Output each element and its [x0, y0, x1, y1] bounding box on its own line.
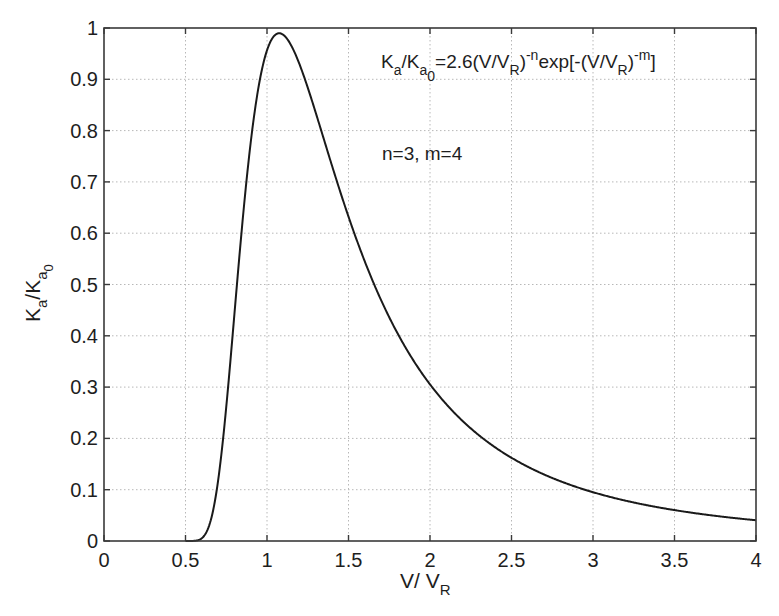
- y-tick-label: 0.8: [70, 120, 98, 142]
- x-tick-label: 2: [424, 549, 435, 571]
- chart-figure: 00.511.522.533.54 00.10.20.30.40.50.60.7…: [0, 0, 779, 616]
- y-tick-label: 0.6: [70, 222, 98, 244]
- x-tick-label: 4: [750, 549, 761, 571]
- x-tick-labels: 00.511.522.533.54: [98, 549, 761, 571]
- x-tick-label: 1.5: [335, 549, 363, 571]
- x-tick-label: 0.5: [172, 549, 200, 571]
- x-tick-label: 0: [98, 549, 109, 571]
- x-tick-label: 3.5: [661, 549, 689, 571]
- x-tick-label: 1: [261, 549, 272, 571]
- x-axis-label: V/ VR: [400, 569, 451, 598]
- x-tick-label: 2.5: [498, 549, 526, 571]
- y-axis-label: Ka/Ka0: [21, 264, 56, 322]
- y-tick-label: 0.9: [70, 68, 98, 90]
- y-tick-label: 0.3: [70, 376, 98, 398]
- y-tick-label: 0.2: [70, 427, 98, 449]
- formula-annotation: Ka/Ka0=2.6(V/VR)-nexp[-(V/VR)-m]: [381, 47, 656, 84]
- data-curve: [186, 33, 757, 541]
- y-tick-label: 0.4: [70, 325, 98, 347]
- y-tick-label: 0.1: [70, 479, 98, 501]
- y-tick-label: 0.5: [70, 274, 98, 296]
- y-tick-label: 0: [87, 530, 98, 552]
- y-tick-labels: 00.10.20.30.40.50.60.70.80.91: [70, 17, 98, 552]
- y-tick-label: 0.7: [70, 171, 98, 193]
- grid-lines: [104, 28, 756, 541]
- x-tick-label: 3: [587, 549, 598, 571]
- y-tick-label: 1: [87, 17, 98, 39]
- params-annotation: n=3, m=4: [382, 143, 463, 164]
